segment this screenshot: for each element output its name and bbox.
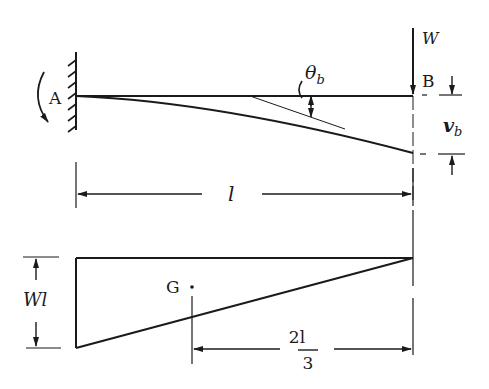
fixed-support-wall (68, 52, 76, 132)
label-3: 3 (303, 353, 314, 373)
label-A: A (48, 88, 62, 108)
label-G: G (166, 277, 180, 297)
label-vb: vb (443, 114, 462, 139)
fixed-end-moment-arrow (38, 72, 48, 122)
tangent-line (250, 96, 345, 129)
label-W: W (422, 29, 440, 48)
label-theta: θb (305, 61, 325, 87)
beam-deflected-curve (76, 96, 413, 153)
moment-diagram (76, 258, 413, 348)
centroid-point (190, 285, 194, 289)
diagram-canvas: A θb W B vb l Wl (0, 0, 489, 389)
label-Wl: Wl (23, 289, 48, 310)
label-length: l (228, 182, 234, 206)
label-2l: 2l (289, 327, 305, 347)
label-B: B (422, 71, 435, 91)
